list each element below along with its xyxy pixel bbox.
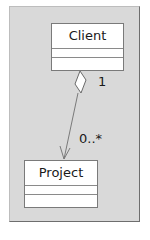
class-project[interactable]: Project: [24, 160, 98, 208]
source-multiplicity: 1: [98, 74, 106, 89]
class-client[interactable]: Client: [51, 23, 124, 71]
operations-compartment: [25, 195, 97, 208]
association-line: [64, 93, 78, 159]
class-name: Project: [25, 161, 97, 186]
operations-compartment: [52, 58, 123, 71]
aggregation-diamond-icon: [75, 71, 86, 93]
attributes-compartment: [52, 49, 123, 58]
attributes-compartment: [25, 186, 97, 195]
target-multiplicity: 0..*: [79, 131, 102, 146]
class-name: Client: [52, 24, 123, 49]
